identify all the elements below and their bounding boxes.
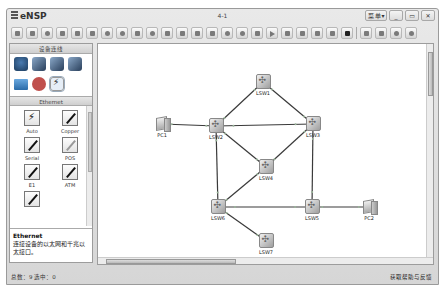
port-indicator <box>294 206 296 208</box>
cloud-icon[interactable] <box>32 77 46 91</box>
redo-icon[interactable] <box>116 27 128 39</box>
delete-links-icon[interactable] <box>176 27 188 39</box>
cable-label: Serial <box>14 155 50 161</box>
help-icon[interactable] <box>405 27 417 39</box>
new-example-icon[interactable] <box>26 27 38 39</box>
end-device-icon[interactable] <box>14 79 28 90</box>
minimize-button[interactable]: _ <box>389 10 403 21</box>
stop-device-icon[interactable] <box>281 27 293 39</box>
node-pc2[interactable]: PC2 <box>360 199 378 221</box>
delete-icon[interactable] <box>161 27 173 39</box>
drag-hand-icon[interactable] <box>146 27 158 39</box>
port-indicator <box>217 191 219 193</box>
device-panel: 设备连线 Ethernet Auto Copper <box>9 43 93 263</box>
node-label: LSW4 <box>251 175 281 181</box>
port-indicator <box>311 191 313 193</box>
port-indicator <box>321 206 323 208</box>
node-label: LSW7 <box>251 249 281 255</box>
node-label: LSW3 <box>298 132 328 138</box>
port-indicator <box>232 125 234 127</box>
close-button[interactable]: ✕ <box>421 10 435 21</box>
pos-cable-icon <box>62 137 78 153</box>
settings-gear-icon[interactable] <box>390 27 402 39</box>
scroll-thumb[interactable] <box>88 112 92 172</box>
new-topology-icon[interactable] <box>11 27 23 39</box>
fit-view-icon[interactable] <box>251 27 263 39</box>
switch-icon <box>306 116 321 131</box>
port-indicator <box>234 206 236 208</box>
menu-button[interactable]: 菜 单▾ <box>365 10 387 21</box>
scroll-thumb[interactable] <box>106 259 236 264</box>
serial-cable-icon <box>24 137 40 153</box>
capture-icon[interactable] <box>296 27 308 39</box>
cable-label: Copper <box>52 128 88 134</box>
zoom-in-icon[interactable] <box>221 27 233 39</box>
command-line-icon[interactable] <box>341 27 353 39</box>
help-feedback-link[interactable]: 获取帮助与反馈 <box>390 272 432 282</box>
switch-icon <box>305 199 320 214</box>
topology-canvas[interactable]: LSW1LSW2LSW3LSW4LSW5LSW6LSW7PC1PC2 <box>97 43 434 265</box>
title-bar: eNSP 4-1 菜 单▾ _ ▭ ✕ <box>7 9 438 23</box>
maximize-button[interactable]: ▭ <box>405 10 419 21</box>
switch-icon[interactable] <box>32 57 46 71</box>
node-pc1[interactable]: PC1 <box>153 116 171 138</box>
connection-icon[interactable] <box>50 77 64 91</box>
cable-list: Auto Copper Serial POS E1 <box>10 106 92 226</box>
cable-serial[interactable]: Serial <box>14 137 50 161</box>
switch-icon <box>259 233 274 248</box>
zoom-out-icon[interactable] <box>236 27 248 39</box>
undo-icon[interactable] <box>101 27 113 39</box>
node-lsw2[interactable]: LSW2 <box>207 118 225 140</box>
node-lsw6[interactable]: LSW6 <box>209 199 227 221</box>
node-lsw3[interactable]: LSW3 <box>304 116 322 138</box>
topology-labels-icon[interactable] <box>326 27 338 39</box>
node-lsw4[interactable]: LSW4 <box>257 159 275 181</box>
scroll-thumb[interactable] <box>428 52 433 96</box>
firewall-icon[interactable] <box>68 57 82 71</box>
toolbar-separator <box>356 27 357 39</box>
text-note-icon[interactable] <box>191 27 203 39</box>
switch-icon <box>211 199 226 214</box>
status-count: 总数：9 选中：0 <box>11 272 56 282</box>
select-pointer-icon[interactable] <box>131 27 143 39</box>
switch-icon <box>259 159 274 174</box>
node-lsw5[interactable]: LSW5 <box>303 199 321 221</box>
terminal-icon[interactable] <box>360 27 372 39</box>
cable-list-scrollbar[interactable] <box>86 106 92 226</box>
show-interface-icon[interactable] <box>311 27 323 39</box>
cable-label: ATM <box>52 182 88 188</box>
print-icon[interactable] <box>86 27 98 39</box>
link-LSW2-LSW3[interactable] <box>216 124 313 126</box>
cable-copper[interactable]: Copper <box>52 110 88 134</box>
cable-ctl[interactable] <box>14 191 50 207</box>
main-toolbar <box>9 24 436 42</box>
node-label: LSW2 <box>201 134 231 140</box>
canvas-horizontal-scrollbar[interactable] <box>98 257 433 264</box>
switch-icon <box>209 118 224 133</box>
node-label: LSW5 <box>297 215 327 221</box>
pc-icon <box>362 199 377 214</box>
canvas-vertical-scrollbar[interactable] <box>426 44 433 258</box>
palette-icon[interactable] <box>206 27 218 39</box>
cable-e1[interactable]: E1 <box>14 164 50 188</box>
copper-cable-icon <box>62 110 78 126</box>
cable-label: POS <box>52 155 88 161</box>
save-as-icon[interactable] <box>71 27 83 39</box>
start-device-icon[interactable] <box>266 27 278 39</box>
save-icon[interactable] <box>56 27 68 39</box>
router-icon[interactable] <box>14 57 28 71</box>
e1-cable-icon <box>24 164 40 180</box>
cable-atm[interactable]: ATM <box>52 164 88 188</box>
forum-icon[interactable] <box>375 27 387 39</box>
cable-auto[interactable]: Auto <box>14 110 50 134</box>
node-lsw1[interactable]: LSW1 <box>254 74 272 96</box>
port-indicator <box>295 123 297 125</box>
description-title: Ethernet <box>13 232 89 239</box>
port-indicator <box>171 123 173 125</box>
open-icon[interactable] <box>41 27 53 39</box>
description-text: 连接设备的以太网和千兆以太接口。 <box>13 240 89 256</box>
wlan-icon[interactable] <box>50 57 64 71</box>
cable-pos[interactable]: POS <box>52 137 88 161</box>
node-lsw7[interactable]: LSW7 <box>257 233 275 255</box>
node-label: PC1 <box>147 132 177 138</box>
